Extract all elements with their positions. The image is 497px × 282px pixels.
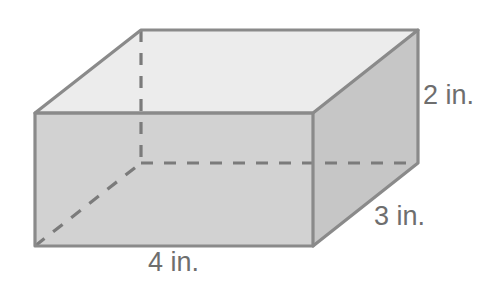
prism-figure: 2 in. 3 in. 4 in. xyxy=(0,0,497,282)
front-face xyxy=(35,113,313,246)
height-dimension-label: 2 in. xyxy=(423,82,474,109)
depth-dimension-label: 3 in. xyxy=(374,203,425,230)
prism-drawing xyxy=(0,0,497,282)
width-dimension-label: 4 in. xyxy=(148,249,199,276)
